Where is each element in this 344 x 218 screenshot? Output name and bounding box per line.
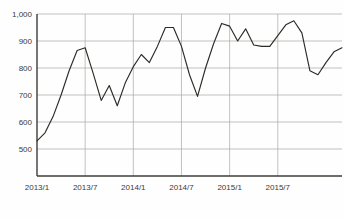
x-tick-labels: 2013/12013/72014/12014/72015/12015/7 — [25, 183, 291, 192]
data-series-line — [37, 21, 342, 141]
y-tick-label: 700 — [19, 91, 33, 100]
y-tick-labels: 5006007008009001,000 — [12, 10, 33, 154]
plot-area: 5006007008009001,000 2013/12013/72014/12… — [0, 0, 344, 218]
y-tick-label: 500 — [19, 145, 33, 154]
y-tick-label: 1,000 — [12, 10, 33, 19]
y-tick-label: 800 — [19, 64, 33, 73]
x-tick-label: 2013/7 — [73, 183, 98, 192]
line-chart: 5006007008009001,000 2013/12013/72014/12… — [0, 0, 344, 218]
x-tick-label: 2015/7 — [266, 183, 291, 192]
x-tick-label: 2015/1 — [217, 183, 242, 192]
y-tick-label: 600 — [19, 118, 33, 127]
x-tick-label: 2013/1 — [25, 183, 50, 192]
y-gridlines — [37, 14, 342, 149]
chart-svg: 5006007008009001,000 2013/12013/72014/12… — [0, 0, 344, 218]
x-tick-label: 2014/7 — [169, 183, 194, 192]
y-tick-label: 900 — [19, 37, 33, 46]
x-tick-label: 2014/1 — [121, 183, 146, 192]
